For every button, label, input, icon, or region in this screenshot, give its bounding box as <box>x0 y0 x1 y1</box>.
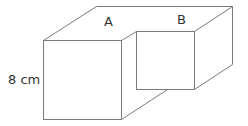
bottom-diagonal-edge <box>122 90 168 120</box>
step-edge <box>122 32 137 41</box>
cube-diagram: A B 8 cm <box>0 0 248 126</box>
cube-a-front-face <box>44 41 122 120</box>
label-dimension: 8 cm <box>8 72 40 87</box>
label-cube-b: B <box>177 12 186 27</box>
label-cube-a: A <box>104 14 113 29</box>
top-left-edge <box>44 7 97 41</box>
bottom-right-edge <box>195 65 233 90</box>
cube-b-front-face <box>137 32 195 90</box>
top-right-edge <box>195 7 233 32</box>
